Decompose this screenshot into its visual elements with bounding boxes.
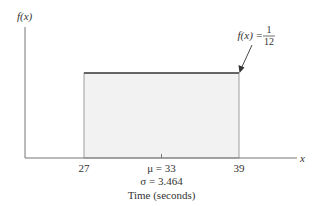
tick-label-39: 39 — [234, 162, 246, 174]
density-annotation-lhs: f(x) = — [238, 29, 263, 42]
uniform-distribution-chart: f(x) x 27 39 μ = 33 σ = 3.464 Time (seco… — [0, 0, 322, 206]
tick-label-27: 27 — [79, 162, 91, 174]
annotation-arrow — [241, 45, 252, 69]
density-annotation-denominator: 12 — [264, 36, 274, 47]
density-area — [84, 73, 239, 158]
x-axis-label: x — [299, 152, 305, 164]
density-annotation-numerator: 1 — [267, 24, 272, 35]
sd-label: σ = 3.464 — [140, 175, 183, 187]
arrowhead-icon — [239, 65, 245, 73]
density-annotation: f(x) = 1 12 — [238, 24, 275, 73]
y-axis-label: f(x) — [17, 10, 33, 23]
mean-label: μ = 33 — [147, 162, 176, 174]
axis-title: Time (seconds) — [128, 189, 196, 202]
